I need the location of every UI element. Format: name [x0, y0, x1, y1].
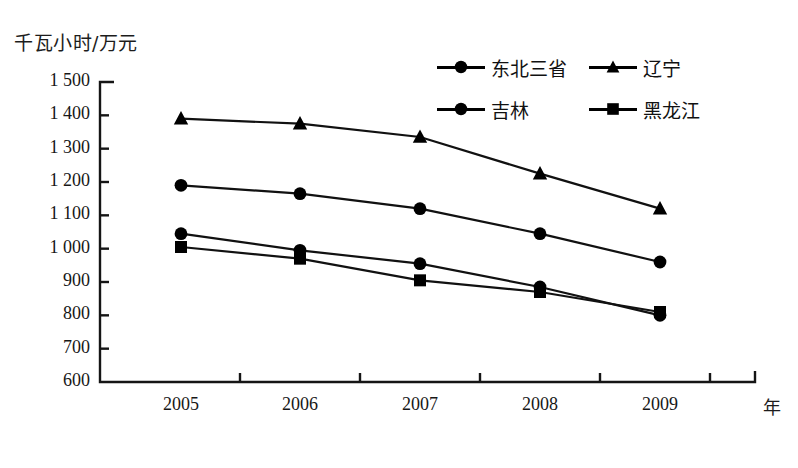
series-line-2 — [181, 185, 660, 262]
circle-marker — [534, 227, 547, 240]
line-chart: 千瓦小时/万元 年 1 5001 4001 3001 2001 1001 000… — [0, 0, 798, 468]
legend-item-1: 辽宁 — [589, 54, 681, 80]
y-tick-label-1500: 1 500 — [30, 70, 90, 91]
y-tick-label-1000: 1 000 — [30, 237, 90, 258]
legend-item-2: 吉林 — [437, 96, 529, 122]
x-tick-label-2006: 2006 — [255, 394, 345, 415]
legend-label-0: 东北三省 — [491, 54, 567, 81]
series-layer — [174, 111, 667, 322]
circle-marker — [175, 179, 188, 192]
x-tick-label-2005: 2005 — [136, 394, 226, 415]
axes — [100, 82, 755, 382]
y-tick-label-900: 900 — [30, 270, 90, 291]
y-tick-label-1100: 1 100 — [30, 203, 90, 224]
x-tick-label-2008: 2008 — [495, 394, 585, 415]
square-marker-icon — [605, 101, 621, 117]
legend-label-3: 黑龙江 — [643, 96, 700, 123]
legend-swatch-1 — [589, 58, 637, 76]
y-tick-label-1200: 1 200 — [30, 170, 90, 191]
circle-marker — [654, 256, 667, 269]
square-marker — [294, 253, 306, 265]
x-tick-label-2007: 2007 — [375, 394, 465, 415]
triangle-marker-icon — [605, 59, 621, 75]
y-tick-label-1400: 1 400 — [30, 103, 90, 124]
legend-item-3: 黑龙江 — [589, 96, 700, 122]
y-tick-label-800: 800 — [30, 303, 90, 324]
x-tick-label-2009: 2009 — [615, 394, 705, 415]
series-辽宁 — [174, 111, 667, 214]
circle-marker — [175, 227, 188, 240]
axis-frame — [100, 82, 755, 382]
square-marker — [414, 274, 426, 286]
legend-swatch-2 — [437, 100, 485, 118]
circle-marker-icon — [453, 59, 469, 75]
legend-item-0: 东北三省 — [437, 54, 567, 80]
series-吉林 — [175, 179, 667, 268]
square-marker — [175, 241, 187, 253]
triangle-marker — [174, 111, 188, 124]
circle-marker-icon — [453, 101, 469, 117]
legend-label-1: 辽宁 — [643, 54, 681, 81]
circle-marker — [294, 187, 307, 200]
y-tick-label-1300: 1 300 — [30, 137, 90, 158]
square-marker — [534, 286, 546, 298]
legend: 东北三省 辽宁 吉林 — [437, 54, 715, 122]
y-tick-label-700: 700 — [30, 337, 90, 358]
legend-swatch-0 — [437, 58, 485, 76]
legend-swatch-3 — [589, 100, 637, 118]
square-marker — [654, 306, 666, 318]
circle-marker — [414, 202, 427, 215]
series-黑龙江 — [175, 241, 666, 318]
y-tick-label-600: 600 — [30, 370, 90, 391]
circle-marker — [414, 257, 427, 270]
legend-label-2: 吉林 — [491, 96, 529, 123]
y-axis-label: 千瓦小时/万元 — [14, 28, 138, 55]
x-axis-label: 年 — [763, 393, 781, 419]
